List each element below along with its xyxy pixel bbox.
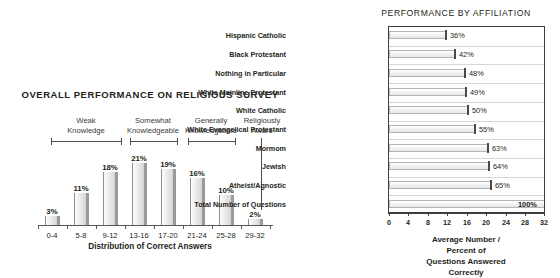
bar-value-0-4: 3% [46, 207, 57, 216]
hbar-value-mormom: 63% [492, 143, 507, 152]
row-divider [389, 158, 544, 159]
hbar-value-hispanic-catholic: 36% [450, 31, 465, 40]
hbar-white-mainline-protestant[interactable] [389, 88, 465, 96]
right-x-axis-title-line2: Questions Answered Correctly [426, 257, 505, 277]
group-label-line2: Knowledge [67, 126, 105, 135]
cat-label-black-protestant: Black Protestant [229, 50, 286, 59]
bracket-generally-knowledgeable [188, 138, 236, 145]
x-tick [154, 225, 155, 229]
cat-label-jewish: Jewish [262, 162, 286, 171]
hbar-jewish[interactable] [389, 162, 488, 170]
x-label-25-28: 25-28 [216, 231, 235, 240]
right-chart-title: PERFORMANCE BY AFFILIATION [381, 9, 530, 18]
x-tick [486, 213, 487, 216]
group-label-line1: Weak [76, 116, 95, 125]
hbar-value-white-catholic: 50% [472, 106, 487, 115]
x-tick [270, 225, 271, 229]
x-label-9-12: 9-12 [102, 231, 117, 240]
group-label-weak-knowledge: Weak Knowledge [51, 116, 121, 135]
x-label-0-4: 0-4 [47, 231, 58, 240]
hbar-white-evangelical-protestant[interactable] [389, 125, 474, 133]
bar-value-29-32: 2% [249, 210, 260, 219]
x-label-13-16: 13-16 [129, 231, 148, 240]
bracket-weak-knowledge [51, 138, 122, 145]
x-tick [67, 225, 68, 229]
bracket-somewhat-knowledgeable [130, 138, 178, 145]
bar-value-13-16: 21% [131, 154, 147, 163]
hbar-value-white-mainline-protestant: 49% [470, 87, 485, 96]
hbar-cap-white-mainline-protestant [465, 87, 467, 97]
hbar-atheist-agnostic[interactable] [389, 181, 490, 189]
x-label-24: 24 [502, 218, 510, 227]
row-divider [389, 83, 544, 84]
row-divider [389, 139, 544, 140]
overall-performance-chart: OVERALL PERFORMANCE ON RELIGIOUS SURVEY … [0, 0, 290, 271]
x-tick [428, 213, 429, 216]
hbar-mormom[interactable] [389, 144, 487, 152]
x-tick [506, 213, 507, 216]
performance-by-affiliation-chart: PERFORMANCE BY AFFILIATION Hispanic Cath… [290, 0, 560, 271]
right-x-axis-title: Average Number / Percent of Questions An… [419, 234, 513, 278]
cat-label-total-number-of-questions: Total Number of Questions [194, 199, 286, 208]
hbar-white-catholic[interactable] [389, 106, 467, 114]
bar-5-8[interactable] [74, 193, 89, 225]
x-label-4: 4 [406, 218, 410, 227]
row-divider [389, 102, 544, 103]
cat-label-white-catholic: White Catholic [236, 106, 286, 115]
row-divider [389, 121, 544, 122]
hbar-black-protestant[interactable] [389, 50, 454, 58]
x-label-0: 0 [387, 218, 391, 227]
cat-label-white-evangelical-protestant: White Evangelical Protestant [187, 124, 286, 133]
bar-value-17-20: 19% [160, 160, 176, 169]
x-label-8: 8 [426, 218, 430, 227]
hbar-value-jewish: 64% [493, 162, 508, 171]
bar-0-4[interactable] [45, 216, 60, 225]
cat-label-hispanic-catholic: Hispanic Catholic [226, 31, 286, 40]
cat-label-white-mainline-protestant: White Mainline Protestant [198, 87, 286, 96]
row-divider [389, 177, 544, 178]
x-tick [544, 213, 545, 216]
cat-label-atheist-agnostic: Atheist/Agnostic [229, 181, 286, 190]
hbar-nothing-in-particular[interactable] [389, 69, 464, 77]
row-divider [389, 195, 544, 196]
bar-value-21-24: 16% [189, 169, 205, 178]
left-x-axis-title: Distribution of Correct Answers [88, 243, 211, 251]
group-label-line1: Somewhat [135, 116, 171, 125]
hbar-cap-nothing-in-particular [464, 68, 466, 78]
x-label-17-20: 17-20 [158, 231, 177, 240]
x-label-20: 20 [482, 218, 490, 227]
hbar-cap-white-evangelical-protestant [474, 124, 476, 134]
left-x-axis-line [38, 225, 273, 226]
hbar-cap-jewish [488, 161, 490, 171]
hbar-cap-black-protestant [454, 49, 456, 59]
bar-value-5-8: 11% [73, 184, 88, 193]
x-label-29-32: 29-32 [245, 231, 264, 240]
x-label-5-8: 5-8 [76, 231, 87, 240]
cat-label-nothing-in-particular: Nothing in Particular [215, 68, 286, 77]
bar-value-9-12: 18% [102, 163, 118, 172]
x-tick [389, 213, 390, 216]
x-label-21-24: 21-24 [187, 231, 206, 240]
x-tick [125, 225, 126, 229]
x-label-12: 12 [443, 218, 451, 227]
x-tick [183, 225, 184, 229]
x-tick [525, 213, 526, 216]
x-tick [38, 225, 39, 229]
bar-29-32[interactable] [248, 219, 263, 225]
hbar-value-atheist-agnostic: 65% [495, 181, 510, 190]
hbar-cap-mormom [487, 143, 489, 153]
hbar-cap-atheist-agnostic [490, 180, 492, 190]
x-tick [212, 225, 213, 229]
bar-13-16[interactable] [132, 163, 147, 225]
hbar-cap-hispanic-catholic [445, 30, 447, 40]
bar-17-20[interactable] [161, 169, 176, 225]
hbar-hispanic-catholic[interactable] [389, 31, 445, 39]
x-label-28: 28 [521, 218, 529, 227]
bar-9-12[interactable] [103, 172, 118, 225]
hbar-value-black-protestant: 42% [459, 50, 474, 59]
hbar-value-nothing-in-particular: 48% [469, 68, 484, 77]
x-label-16: 16 [463, 218, 471, 227]
x-tick [408, 213, 409, 216]
hbar-cap-white-catholic [467, 105, 469, 115]
